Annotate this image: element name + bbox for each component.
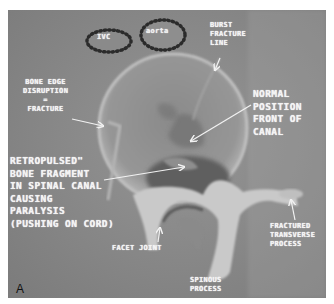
- ct-scan-panel: IVC aorta BURST FRACTURE LINE BONE EDGE …: [8, 10, 326, 298]
- label-retropulsed-fragment: RETROPULSED" BONE FRAGMENT IN SPINAL CAN…: [10, 155, 114, 230]
- panel-letter: A: [16, 282, 24, 296]
- label-normal-position: NORMAL POSITION FRONT OF CANAL: [253, 88, 302, 138]
- label-fractured-transverse-process: FRACTURED TRANSVERSE PROCESS: [270, 222, 315, 249]
- label-ivc: IVC: [97, 33, 111, 42]
- label-burst-fracture-line: BURST FRACTURE LINE: [210, 21, 246, 48]
- label-aorta: aorta: [146, 27, 169, 36]
- label-facet-joint: FACET JOINT: [112, 244, 162, 253]
- ct-scan-image: [8, 10, 326, 298]
- fractured-transverse-process: [279, 189, 303, 199]
- label-spinous-process: SPINOUS PROCESS: [190, 276, 222, 294]
- label-bone-edge-disruption: BONE EDGE DISRUPTION = FRACTURE: [23, 78, 68, 114]
